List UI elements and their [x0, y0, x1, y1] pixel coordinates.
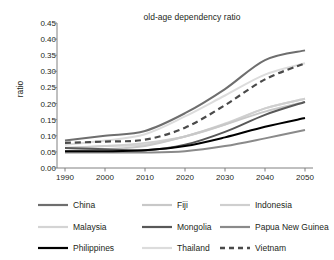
legend-line-swatch [142, 200, 172, 210]
legend-item-label: Papua New Guinea [255, 222, 329, 232]
legend-item-mongolia[interactable]: Mongolia [142, 216, 220, 237]
legend-line-swatch [142, 243, 172, 253]
chart-legend: ChinaFijiIndonesiaMalaysiaMongoliaPapua … [0, 192, 334, 260]
legend-item-china[interactable]: China [38, 194, 142, 215]
legend-item-philippines[interactable]: Philippines [38, 237, 142, 258]
legend-item-label: Vietnam [255, 243, 286, 253]
legend-line-swatch [38, 243, 68, 253]
legend-line-swatch [220, 222, 250, 232]
legend-item-indonesia[interactable]: Indonesia [220, 194, 334, 215]
chart-plot-region: old-age dependency ratio ratio 0.000.050… [0, 0, 334, 190]
legend-item-label: Philippines [73, 243, 114, 253]
legend-item-vietnam[interactable]: Vietnam [220, 237, 334, 258]
legend-line-swatch [220, 243, 250, 253]
legend-row: PhilippinesThailandVietnam [0, 237, 334, 258]
legend-item-papua-new-guinea[interactable]: Papua New Guinea [220, 216, 334, 237]
legend-item-label: Malaysia [73, 222, 107, 232]
series-line [65, 63, 305, 143]
legend-line-swatch [38, 222, 68, 232]
legend-line-swatch [38, 200, 68, 210]
legend-item-fiji[interactable]: Fiji [142, 194, 220, 215]
figure: old-age dependency ratio ratio 0.000.050… [0, 0, 334, 260]
series-line [65, 63, 305, 145]
legend-row: ChinaFijiIndonesia [0, 194, 334, 215]
legend-item-thailand[interactable]: Thailand [142, 237, 220, 258]
legend-row: MalaysiaMongoliaPapua New Guinea [0, 216, 334, 237]
legend-item-label: Mongolia [177, 222, 212, 232]
legend-item-label: Thailand [177, 243, 210, 253]
legend-item-malaysia[interactable]: Malaysia [38, 216, 142, 237]
legend-line-swatch [142, 222, 172, 232]
chart-lines [0, 0, 334, 190]
legend-line-swatch [220, 200, 250, 210]
legend-item-label: Indonesia [255, 200, 292, 210]
legend-item-label: China [73, 200, 95, 210]
legend-item-label: Fiji [177, 200, 188, 210]
